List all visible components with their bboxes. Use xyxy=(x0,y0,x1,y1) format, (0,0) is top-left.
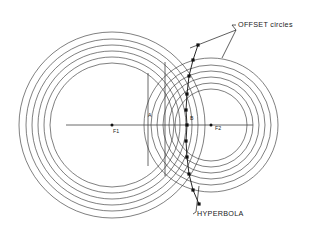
callout-label-hyperbola: HYPERBOLA xyxy=(197,209,244,218)
hyperbola-point-4 xyxy=(185,92,188,95)
focus-marker-f2 xyxy=(210,124,213,127)
point-label-b: B xyxy=(190,115,194,121)
hyperbola-point-9 xyxy=(187,172,190,175)
hyperbola-point-3 xyxy=(187,74,190,77)
hyperbola-construction-figure: OFFSET circles HYPERBOLA F1 A B F2 xyxy=(0,0,320,250)
callout-label-offset-circles: OFFSET circles xyxy=(238,20,293,29)
diagram-canvas: OFFSET circles HYPERBOLA F1 A B F2 xyxy=(0,0,320,250)
hyperbola-point-11 xyxy=(197,202,200,205)
hyperbola-point-2 xyxy=(191,58,194,61)
hyperbola-point-7 xyxy=(184,139,187,142)
point-label-f2: F2 xyxy=(215,125,221,131)
hyperbola-point-6 xyxy=(185,123,188,126)
point-label-a: A xyxy=(148,112,152,118)
focus-marker-f1 xyxy=(111,124,114,127)
point-label-f1: F1 xyxy=(113,128,119,134)
hyperbola-point-10 xyxy=(191,188,194,191)
hyperbola-point-8 xyxy=(185,155,188,158)
hyperbola-point-5 xyxy=(184,108,187,111)
